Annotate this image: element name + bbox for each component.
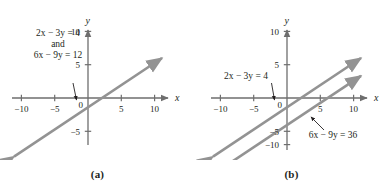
panel-a: x y −10 −5 5 10 10 5 −5 0 2x − 3y = 4 an… bbox=[0, 0, 195, 184]
panel-caption-b: (b) bbox=[194, 168, 389, 180]
plot-a: x y −10 −5 5 10 10 5 −5 0 bbox=[0, 0, 195, 160]
figure-root: x y −10 −5 5 10 10 5 −5 0 2x − 3y = 4 an… bbox=[0, 0, 389, 184]
x-tick-label-a-2: 5 bbox=[119, 104, 124, 114]
x-axis-a bbox=[12, 95, 168, 101]
y-tick-label-a-2: −5 bbox=[70, 127, 80, 137]
equation-label-coincident: 2x − 3y = 4 and 6x − 9y = 12 bbox=[14, 28, 102, 61]
x-tick-label-b-3: 10 bbox=[349, 104, 359, 114]
equation-line-2: and bbox=[14, 39, 102, 50]
x-tick-label-a-3: 10 bbox=[150, 104, 160, 114]
x-axis-name-a: x bbox=[174, 92, 180, 103]
y-tick-label-b-1: 5 bbox=[275, 60, 280, 70]
y-axis-name-b: y bbox=[284, 15, 290, 26]
x-axis-name-b: x bbox=[373, 92, 379, 103]
graph-line-lower-b bbox=[226, 76, 361, 160]
equation-upper-text: 2x − 3y = 4 bbox=[207, 71, 285, 82]
panel-b: x y −10 −5 5 10 10 5 −5 −10 0 2x − 3y = … bbox=[194, 0, 389, 184]
y-axis-name-a: y bbox=[85, 15, 91, 26]
y-tick-label-b-2: −5 bbox=[269, 127, 279, 137]
x-tick-label-b-0: −10 bbox=[213, 104, 228, 114]
equation-label-upper-line: 2x − 3y = 4 bbox=[207, 71, 285, 82]
x-axis-b bbox=[211, 95, 367, 101]
panel-caption-a: (a) bbox=[0, 168, 195, 180]
x-tick-label-a-1: −5 bbox=[50, 104, 60, 114]
y-tick-label-b-3: −10 bbox=[265, 140, 280, 150]
y-tick-label-a-1: 5 bbox=[76, 60, 81, 70]
equation-label-lower-line: 6x − 9y = 36 bbox=[290, 130, 376, 141]
y-tick-label-b-0: 10 bbox=[270, 27, 280, 37]
origin-label-b: 0 bbox=[278, 100, 283, 110]
x-tick-label-b-1: −5 bbox=[249, 104, 259, 114]
x-tick-label-a-0: −10 bbox=[14, 104, 29, 114]
equation-line-3: 6x − 9y = 12 bbox=[14, 50, 102, 61]
origin-label-a: 0 bbox=[79, 100, 84, 110]
equation-lower-text: 6x − 9y = 36 bbox=[290, 130, 376, 141]
equation-line-1: 2x − 3y = 4 bbox=[14, 28, 102, 39]
x-tick-label-b-2: 5 bbox=[318, 104, 323, 114]
callout-arrow-lower-b bbox=[311, 117, 324, 130]
